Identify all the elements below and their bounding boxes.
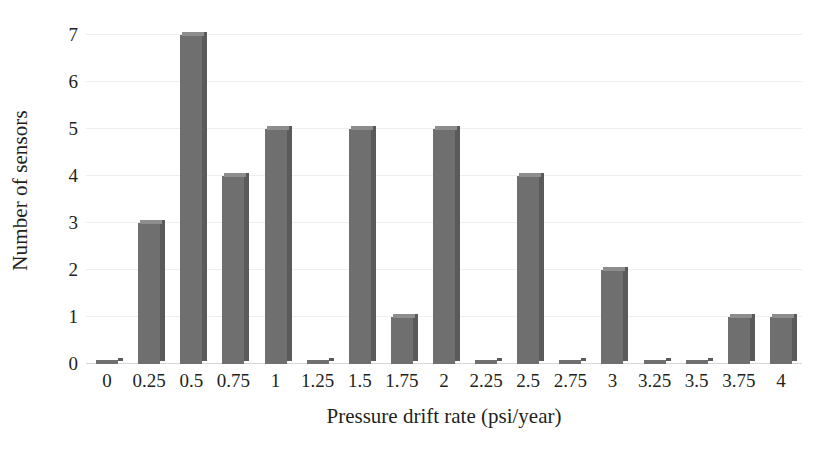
bar-front-face	[391, 317, 413, 364]
y-tick-label: 5	[42, 119, 78, 138]
bar-side-face	[160, 220, 165, 361]
bar-top-face	[519, 173, 541, 177]
bar-top-face	[351, 126, 373, 130]
bar-side-face	[539, 173, 544, 361]
bar-zero-side-face	[329, 358, 334, 361]
bar-zero-side-face	[118, 358, 123, 361]
bar-side-face	[792, 314, 797, 361]
bar-side-face	[244, 173, 249, 361]
bar-top-face	[393, 314, 415, 318]
x-tick-label: 1.5	[348, 371, 372, 392]
bar-top-face	[267, 126, 289, 130]
x-tick-label: 2.25	[469, 371, 502, 392]
bar	[265, 129, 287, 364]
x-tick-label: 3.5	[685, 371, 709, 392]
x-tick-label: 4	[776, 371, 786, 392]
bar-front-face	[517, 176, 539, 364]
x-tick-label: 1	[271, 371, 281, 392]
y-tick-label: 1	[42, 307, 78, 326]
x-tick-label: 2.75	[554, 371, 587, 392]
bar-zero-side-face	[666, 358, 671, 361]
bar	[307, 360, 329, 364]
bar	[770, 317, 792, 364]
bar-top-face	[435, 126, 457, 130]
bar-zero-side-face	[497, 358, 502, 361]
x-tick-label: 2	[439, 371, 449, 392]
bar-front-face	[138, 223, 160, 364]
bar	[96, 360, 118, 364]
bar-top-face	[140, 220, 162, 224]
x-tick-label: 3.75	[722, 371, 755, 392]
bar	[686, 360, 708, 364]
x-tick-label: 3.25	[638, 371, 671, 392]
bar-side-face	[202, 32, 207, 361]
bar-front-face	[222, 176, 244, 364]
bar	[391, 317, 413, 364]
bar-zero-marker	[559, 360, 581, 364]
bar-side-face	[750, 314, 755, 361]
y-tick-label: 0	[42, 354, 78, 373]
bar	[517, 176, 539, 364]
bar-zero-marker	[96, 360, 118, 364]
y-axis-title: Number of sensors	[0, 0, 40, 380]
y-tick-label: 6	[42, 72, 78, 91]
x-tick-label: 1.75	[385, 371, 418, 392]
x-tick-label: 0	[102, 371, 112, 392]
bar-top-face	[603, 267, 625, 271]
bar-front-face	[180, 35, 202, 364]
bar	[433, 129, 455, 364]
bar-front-face	[349, 129, 371, 364]
bar-top-face	[730, 314, 752, 318]
bar-top-face	[182, 32, 204, 36]
bar-zero-marker	[475, 360, 497, 364]
bar-front-face	[770, 317, 792, 364]
bar	[601, 270, 623, 364]
x-tick-label: 2.5	[516, 371, 540, 392]
bar	[475, 360, 497, 364]
bar	[349, 129, 371, 364]
y-tick-label: 7	[42, 25, 78, 44]
bar	[180, 35, 202, 364]
x-tick-label: 0.5	[179, 371, 203, 392]
bar-side-face	[455, 126, 460, 361]
bar-front-face	[265, 129, 287, 364]
bar-zero-side-face	[708, 358, 713, 361]
bar	[559, 360, 581, 364]
x-axis-title: Pressure drift rate (psi/year)	[86, 404, 802, 429]
x-tick-label: 3	[608, 371, 618, 392]
bar-top-face	[772, 314, 794, 318]
bar-front-face	[601, 270, 623, 364]
bar-side-face	[623, 267, 628, 361]
y-tick-label: 3	[42, 213, 78, 232]
x-tick-label: 1.25	[301, 371, 334, 392]
bar-zero-marker	[644, 360, 666, 364]
bar-chart-figure: Number of sensors 01234567 00.250.50.751…	[0, 0, 821, 457]
bar	[644, 360, 666, 364]
bar-side-face	[413, 314, 418, 361]
bar-zero-marker	[307, 360, 329, 364]
y-axis-title-text: Number of sensors	[8, 110, 33, 270]
x-axis-tick-labels: 00.250.50.7511.251.51.7522.252.52.7533.2…	[86, 371, 802, 401]
x-tick-label: 0.75	[217, 371, 250, 392]
bar	[138, 223, 160, 364]
bar-zero-marker	[686, 360, 708, 364]
y-axis-tick-labels: 01234567	[42, 0, 78, 457]
bar-side-face	[287, 126, 292, 361]
x-tick-label: 0.25	[133, 371, 166, 392]
y-tick-label: 2	[42, 260, 78, 279]
bar-top-face	[224, 173, 246, 177]
bar	[728, 317, 750, 364]
y-tick-label: 4	[42, 166, 78, 185]
bars-layer	[86, 0, 802, 364]
bar-side-face	[371, 126, 376, 361]
bar-zero-side-face	[581, 358, 586, 361]
bar-front-face	[728, 317, 750, 364]
bar	[222, 176, 244, 364]
bar-front-face	[433, 129, 455, 364]
